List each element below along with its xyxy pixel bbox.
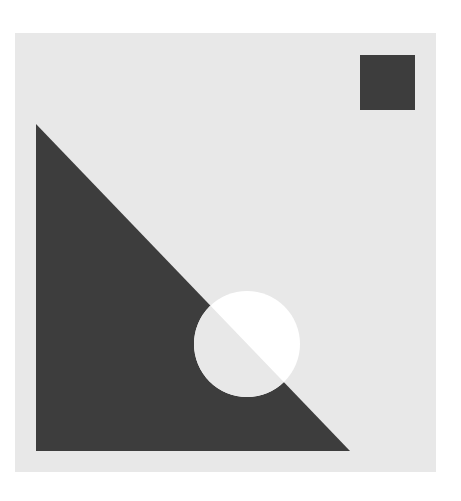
dark-square — [360, 55, 415, 110]
artwork-canvas — [0, 0, 461, 501]
